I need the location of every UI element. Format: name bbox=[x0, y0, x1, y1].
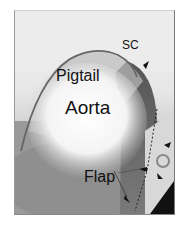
label-sc: SC bbox=[122, 39, 139, 51]
angiogram-image: SC Pigtail Aorta Flap bbox=[14, 10, 175, 215]
label-aorta: Aorta bbox=[65, 98, 110, 117]
label-pigtail: Pigtail bbox=[56, 68, 100, 84]
label-flap: Flap bbox=[84, 169, 115, 185]
